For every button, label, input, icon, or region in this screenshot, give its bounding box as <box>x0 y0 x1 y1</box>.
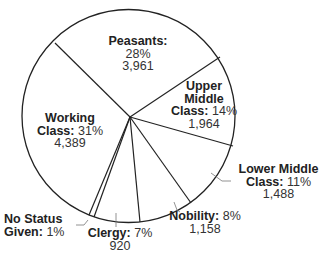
label-no-status-line2: Given: <box>4 225 43 239</box>
label-working-class: Working Class: 31% 4,389 <box>30 112 110 150</box>
label-clergy: Clergy: 7% 920 <box>80 227 160 252</box>
label-clergy-count: 920 <box>110 239 131 253</box>
label-nobility-count: 1,158 <box>189 222 220 236</box>
label-no-status: No Status Given: 1% <box>4 213 84 238</box>
label-peasants-count: 3,961 <box>122 59 153 73</box>
label-upper-middle: Upper Middle Class: 14% 1,964 <box>164 80 244 130</box>
label-lower-middle-count: 1,488 <box>263 187 294 201</box>
label-lower-middle: Lower Middle Class: 11% 1,488 <box>230 163 327 201</box>
label-no-status-pct: 1% <box>46 225 64 239</box>
label-working-count: 4,389 <box>54 136 85 150</box>
label-peasants: Peasants: 28% 3,961 <box>98 35 178 73</box>
label-nobility: Nobility: 8% 1,158 <box>160 210 250 235</box>
label-nobility-pct: 8% <box>223 209 241 223</box>
label-clergy-pct: 7% <box>134 226 152 240</box>
label-upper-middle-count: 1,964 <box>188 117 219 131</box>
